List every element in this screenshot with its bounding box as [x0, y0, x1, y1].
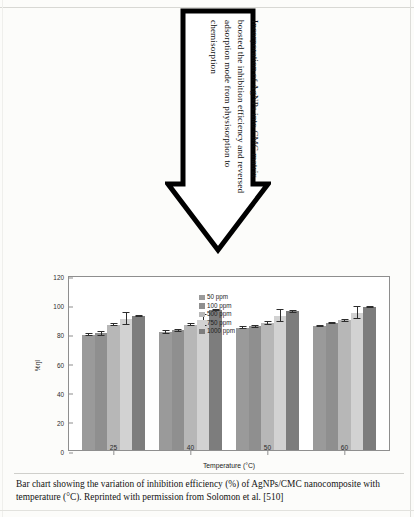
x-tick-label: 50 — [264, 444, 271, 451]
legend-label: 50 ppm — [207, 293, 228, 302]
bar-50-ppm — [82, 335, 95, 450]
legend-label: 100 ppm — [207, 302, 232, 311]
caption-divider — [14, 473, 404, 474]
bar-100-ppm — [326, 323, 339, 450]
page-rule-right — [410, 0, 411, 517]
y-tick-label: 0 — [60, 449, 69, 456]
error-bar — [354, 306, 361, 319]
legend-item: 500 ppm — [199, 310, 235, 319]
error-bar — [289, 310, 296, 312]
y-tick-label: 80 — [57, 332, 69, 339]
bar-100-ppm — [95, 333, 108, 450]
error-bar — [366, 306, 373, 308]
legend-item: 1000 ppm — [199, 327, 235, 336]
legend-item: 750 ppm — [199, 319, 235, 328]
plot-area: 020406080100120 50 ppm100 ppm500 ppm750 … — [68, 276, 390, 451]
error-bar — [85, 333, 92, 336]
error-bar — [98, 331, 105, 335]
arrow-callout: Incorporation of AgNPs into CMC matrix b… — [165, 8, 271, 254]
callout-text: Incorporation of AgNPs into CMC matrix b… — [175, 20, 261, 206]
legend-label: 500 ppm — [207, 310, 232, 319]
bar-750-ppm — [197, 320, 210, 450]
bar-1000-ppm — [286, 311, 299, 450]
bar-1000-ppm — [132, 316, 145, 450]
page-rule-bottom — [0, 510, 414, 511]
x-tick-mark — [191, 451, 192, 455]
error-bar — [123, 312, 130, 325]
x-tick-label: 60 — [341, 444, 348, 451]
chart-legend: 50 ppm100 ppm500 ppm750 ppm1000 ppm — [199, 293, 235, 336]
bar-750-ppm — [274, 316, 287, 450]
y-tick-label: 60 — [57, 361, 69, 368]
error-bar — [135, 315, 142, 317]
bar-750-ppm — [120, 319, 133, 450]
y-tick-label: 120 — [53, 274, 69, 281]
figure-caption: Bar chart showing the variation of inhib… — [16, 478, 400, 504]
bar-500-ppm — [338, 320, 351, 450]
y-tick-label: 20 — [57, 419, 69, 426]
error-bar — [329, 322, 336, 325]
error-bar — [341, 319, 348, 322]
error-bar — [252, 325, 259, 328]
error-bar — [110, 323, 117, 326]
page-rule-left — [2, 0, 3, 517]
error-bar — [264, 321, 271, 325]
x-axis-label: Temperature (°C) — [68, 462, 390, 469]
bar-50-ppm — [313, 326, 326, 450]
bar-50-ppm — [236, 328, 249, 451]
bar-500-ppm — [261, 323, 274, 450]
y-tick-label: 100 — [53, 303, 69, 310]
document-page: Incorporation of AgNPs into CMC matrix b… — [0, 0, 414, 517]
x-tick-label: 25 — [110, 444, 117, 451]
legend-label: 750 ppm — [207, 319, 232, 328]
legend-item: 100 ppm — [199, 302, 235, 311]
y-axis-label: %ŋI — [34, 360, 41, 371]
error-bar — [175, 329, 182, 332]
legend-label: 1000 ppm — [207, 327, 235, 336]
legend-item: 50 ppm — [199, 293, 235, 302]
legend-swatch-icon — [199, 295, 205, 301]
bar-chart: %ŋI 020406080100120 50 ppm100 ppm500 ppm… — [16, 266, 398, 472]
bar-group — [236, 277, 299, 450]
x-tick-label: 40 — [187, 444, 194, 451]
bar-50-ppm — [159, 332, 172, 450]
error-bar — [239, 326, 246, 329]
bar-100-ppm — [172, 330, 185, 450]
bar-1000-ppm — [363, 307, 376, 450]
legend-swatch-icon — [199, 303, 205, 309]
y-tick-label: 40 — [57, 390, 69, 397]
error-bar — [162, 330, 169, 334]
bar-group — [82, 277, 145, 450]
bar-500-ppm — [184, 325, 197, 450]
x-tick-mark — [114, 451, 115, 455]
x-tick-mark — [345, 451, 346, 455]
error-bar — [187, 323, 194, 327]
bar-group — [313, 277, 376, 450]
x-tick-mark — [268, 451, 269, 455]
legend-swatch-icon — [199, 320, 205, 326]
bar-750-ppm — [351, 313, 364, 450]
bar-500-ppm — [107, 325, 120, 450]
error-bar — [277, 309, 284, 322]
bar-100-ppm — [249, 326, 262, 450]
error-bar — [316, 325, 323, 327]
legend-swatch-icon — [199, 312, 205, 318]
legend-swatch-icon — [199, 329, 205, 335]
